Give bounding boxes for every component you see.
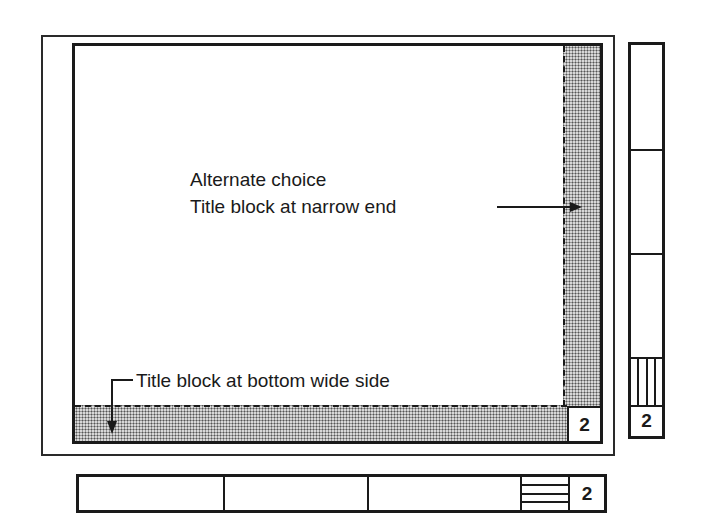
- vertical-title-section-2: [631, 149, 662, 255]
- horizontal-title-section-1: [79, 477, 225, 510]
- horizontal-title-block: 2: [76, 474, 607, 513]
- horizontal-title-section-2: [225, 477, 369, 510]
- vertical-title-number: 2: [641, 410, 652, 432]
- horizontal-title-number-box: 2: [570, 477, 604, 510]
- horizontal-title-revision-lines: [522, 477, 570, 510]
- vertical-title-number-box: 2: [631, 405, 662, 436]
- horizontal-title-number: 2: [582, 483, 593, 505]
- vertical-title-block: 2: [628, 42, 665, 439]
- arrow-to-bottom-side: [107, 380, 133, 434]
- arrow-to-narrow-end: [497, 202, 582, 212]
- vertical-title-section-3: [631, 253, 662, 359]
- vertical-title-section-1: [631, 45, 662, 151]
- vertical-title-revision-lines: [631, 357, 662, 407]
- leader-arrows: [0, 0, 710, 527]
- horizontal-title-section-3: [369, 477, 522, 510]
